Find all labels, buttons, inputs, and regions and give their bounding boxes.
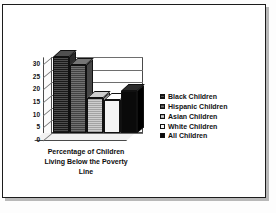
slide-page: 302520151050 Percentage of Children Livi… [0,0,276,213]
plot-area: 302520151050 [43,57,143,141]
y-axis-tick-label: 20 [33,86,40,93]
legend-swatch-all-children [160,133,165,138]
legend-swatch-asian-children [160,114,165,119]
bar-side-face [137,85,144,133]
bar-black-children[interactable] [53,57,69,133]
x-axis-title-line-2: Living Below the Poverty [27,157,145,167]
y-axis-tick-label: 30 [33,61,40,68]
y-axis-tick-label: 5 [36,124,40,131]
bar-series-group [51,57,143,133]
legend-item-all-children[interactable]: All Children [160,131,260,140]
x-axis-title-line-3: Line [27,167,145,177]
slide-frame: 302520151050 Percentage of Children Livi… [2,4,266,198]
bar-front-face [53,57,69,133]
legend-label: Black Children [168,93,217,100]
legend-label: Asian Children [168,113,217,120]
legend-swatch-black-children [160,94,165,99]
bar-front-face [121,91,137,133]
bar-chart: 302520151050 Percentage of Children Livi… [3,5,267,199]
gridline [51,133,143,134]
chart-legend: Black ChildrenHispanic ChildrenAsian Chi… [160,92,260,141]
legend-label: White Children [168,123,217,130]
x-axis-title: Percentage of Children Living Below the … [27,147,145,177]
y-axis-tick-label: 15 [33,99,40,106]
x-axis-title-line-1: Percentage of Children [27,147,145,157]
legend-item-black-children[interactable]: Black Children [160,92,260,101]
legend-swatch-hispanic-children [160,104,165,109]
bar-white-children[interactable] [104,100,120,133]
bar-asian-children[interactable] [87,98,103,133]
bar-all-children[interactable] [121,91,137,133]
legend-item-hispanic-children[interactable]: Hispanic Children [160,102,260,111]
legend-item-asian-children[interactable]: Asian Children [160,112,260,121]
bar-front-face [87,98,103,133]
legend-label: Hispanic Children [168,103,228,110]
legend-swatch-white-children [160,124,165,129]
legend-item-white-children[interactable]: White Children [160,121,260,130]
legend-label: All Children [168,132,207,139]
y-axis-tick-label: 0 [36,137,40,144]
y-axis-tick-label: 10 [33,111,40,118]
bar-hispanic-children[interactable] [70,65,86,133]
y-axis-tick-label: 25 [33,73,40,80]
bar-front-face [104,100,120,133]
bar-front-face [70,65,86,133]
